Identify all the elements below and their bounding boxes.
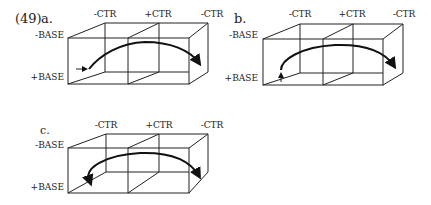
panel-c-label: c. xyxy=(40,124,50,137)
panel-a-ctr-right: -CTR xyxy=(201,9,224,19)
panel-b-base-bottom: +BASE xyxy=(225,73,258,83)
panel-b-ctr-left: -CTR xyxy=(289,9,312,19)
panel-c-movement-arc xyxy=(88,153,199,179)
panel-a-base-bottom: +BASE xyxy=(31,72,64,82)
panel-a-base-top: -BASE xyxy=(35,30,64,40)
panel-b-movement-arc xyxy=(281,45,394,70)
panel-b-base-top: -BASE xyxy=(229,30,258,40)
panel-c-base-bottom: +BASE xyxy=(31,182,64,192)
panel-a: (49) a. -CTR +CTR -CTR -BASE +BASE xyxy=(15,9,224,84)
panel-b-ctr-right: -CTR xyxy=(393,9,416,19)
panel-c-base-top: -BASE xyxy=(35,140,64,150)
panel-b-label: b. xyxy=(234,11,246,26)
panel-a-ctr-left: -CTR xyxy=(94,9,117,19)
panel-c-ctr-left: -CTR xyxy=(95,120,118,130)
panel-b: b. -CTR +CTR -CTR -BASE +BASE xyxy=(225,9,416,85)
panel-a-label: a. xyxy=(41,11,53,26)
panel-c-ctr-mid: +CTR xyxy=(145,120,172,130)
figure-49: (49) a. -CTR +CTR -CTR -BASE +BASE xyxy=(0,0,431,205)
panel-a-ctr-mid: +CTR xyxy=(144,9,171,19)
panel-a-box xyxy=(68,23,208,84)
panel-c: c. -CTR +CTR -CTR -BASE +BASE xyxy=(31,120,224,193)
example-number: (49) xyxy=(15,11,42,26)
panel-c-ctr-right: -CTR xyxy=(201,120,224,130)
panel-b-ctr-mid: +CTR xyxy=(338,9,365,19)
